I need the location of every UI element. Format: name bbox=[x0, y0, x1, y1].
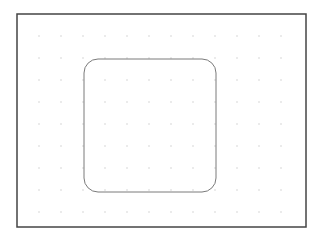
grid-dot bbox=[280, 123, 281, 124]
grid-dot bbox=[170, 79, 171, 80]
grid-dot bbox=[82, 79, 83, 80]
grid-dot bbox=[192, 167, 193, 168]
grid-dot bbox=[104, 123, 105, 124]
grid-dot bbox=[192, 189, 193, 190]
grid-dot bbox=[104, 167, 105, 168]
grid-dot bbox=[236, 211, 237, 212]
grid-dot bbox=[148, 35, 149, 36]
grid-dot bbox=[280, 167, 281, 168]
grid-dot bbox=[192, 211, 193, 212]
grid-dot bbox=[280, 101, 281, 102]
grid-dot bbox=[126, 167, 127, 168]
grid-dot bbox=[148, 101, 149, 102]
grid-dot bbox=[82, 145, 83, 146]
grid-dot bbox=[170, 211, 171, 212]
grid-dot bbox=[214, 123, 215, 124]
grid-dot bbox=[148, 211, 149, 212]
grid-dot bbox=[38, 167, 39, 168]
grid-dot bbox=[104, 79, 105, 80]
grid-dot bbox=[148, 167, 149, 168]
grid-dot bbox=[214, 35, 215, 36]
grid-dot bbox=[280, 57, 281, 58]
grid-dot bbox=[60, 57, 61, 58]
grid-dot bbox=[258, 35, 259, 36]
grid-dot bbox=[236, 57, 237, 58]
grid-dot bbox=[60, 123, 61, 124]
grid-dot bbox=[38, 189, 39, 190]
grid-dot bbox=[38, 101, 39, 102]
grid-dot bbox=[258, 101, 259, 102]
grid-dot bbox=[192, 35, 193, 36]
grid-dot bbox=[82, 189, 83, 190]
grid-dot bbox=[126, 79, 127, 80]
grid-dot bbox=[82, 211, 83, 212]
grid-dot bbox=[192, 145, 193, 146]
grid-dot bbox=[126, 189, 127, 190]
grid-dot bbox=[82, 57, 83, 58]
grid-dot bbox=[258, 189, 259, 190]
grid-dot bbox=[126, 123, 127, 124]
grid-dot bbox=[126, 145, 127, 146]
grid-dot bbox=[104, 35, 105, 36]
grid-dot bbox=[236, 79, 237, 80]
grid-dot bbox=[60, 35, 61, 36]
grid-dot bbox=[170, 123, 171, 124]
grid-dot bbox=[258, 123, 259, 124]
grid-dot bbox=[214, 211, 215, 212]
grid-dot bbox=[148, 123, 149, 124]
grid-dot bbox=[170, 101, 171, 102]
grid-dot bbox=[38, 145, 39, 146]
grid-dot bbox=[192, 57, 193, 58]
grid-dot bbox=[60, 101, 61, 102]
grid-dot bbox=[258, 167, 259, 168]
grid-dot bbox=[214, 101, 215, 102]
grid-dot bbox=[214, 189, 215, 190]
grid-dot bbox=[214, 167, 215, 168]
grid-dot bbox=[280, 145, 281, 146]
grid-dot bbox=[38, 79, 39, 80]
grid-dot bbox=[38, 211, 39, 212]
rounded-rectangle-shape[interactable] bbox=[84, 59, 216, 192]
grid-dot bbox=[38, 123, 39, 124]
grid-dot bbox=[236, 123, 237, 124]
grid-dot bbox=[170, 189, 171, 190]
grid-dot bbox=[82, 35, 83, 36]
grid-dot bbox=[258, 57, 259, 58]
grid-dot bbox=[280, 211, 281, 212]
grid-dot bbox=[170, 145, 171, 146]
grid-dot bbox=[258, 211, 259, 212]
grid-dot bbox=[148, 79, 149, 80]
grid-dot bbox=[148, 145, 149, 146]
grid-dot bbox=[38, 57, 39, 58]
grid-dot bbox=[38, 35, 39, 36]
grid-dot bbox=[214, 79, 215, 80]
grid-dot bbox=[126, 57, 127, 58]
grid-dot bbox=[214, 57, 215, 58]
grid-dot bbox=[236, 145, 237, 146]
shapes-layer bbox=[84, 59, 216, 192]
grid-dot bbox=[192, 123, 193, 124]
grid-dot bbox=[170, 35, 171, 36]
grid-dot bbox=[60, 189, 61, 190]
grid-dot bbox=[126, 35, 127, 36]
grid-dot bbox=[192, 79, 193, 80]
grid-dot bbox=[192, 101, 193, 102]
grid-dot bbox=[104, 189, 105, 190]
grid-dot bbox=[280, 189, 281, 190]
grid-dot bbox=[104, 101, 105, 102]
grid-dot bbox=[126, 101, 127, 102]
grid-dot bbox=[236, 189, 237, 190]
grid-dot bbox=[60, 79, 61, 80]
grid-dot bbox=[60, 167, 61, 168]
grid-dot bbox=[104, 57, 105, 58]
grid-dot bbox=[104, 145, 105, 146]
grid-dot bbox=[214, 145, 215, 146]
grid-dot bbox=[280, 79, 281, 80]
dot-grid bbox=[38, 35, 281, 212]
grid-dot bbox=[104, 211, 105, 212]
grid-dot bbox=[236, 167, 237, 168]
grid-dot bbox=[148, 189, 149, 190]
grid-dot bbox=[82, 101, 83, 102]
diagram-canvas[interactable] bbox=[0, 0, 320, 249]
grid-dot bbox=[170, 57, 171, 58]
